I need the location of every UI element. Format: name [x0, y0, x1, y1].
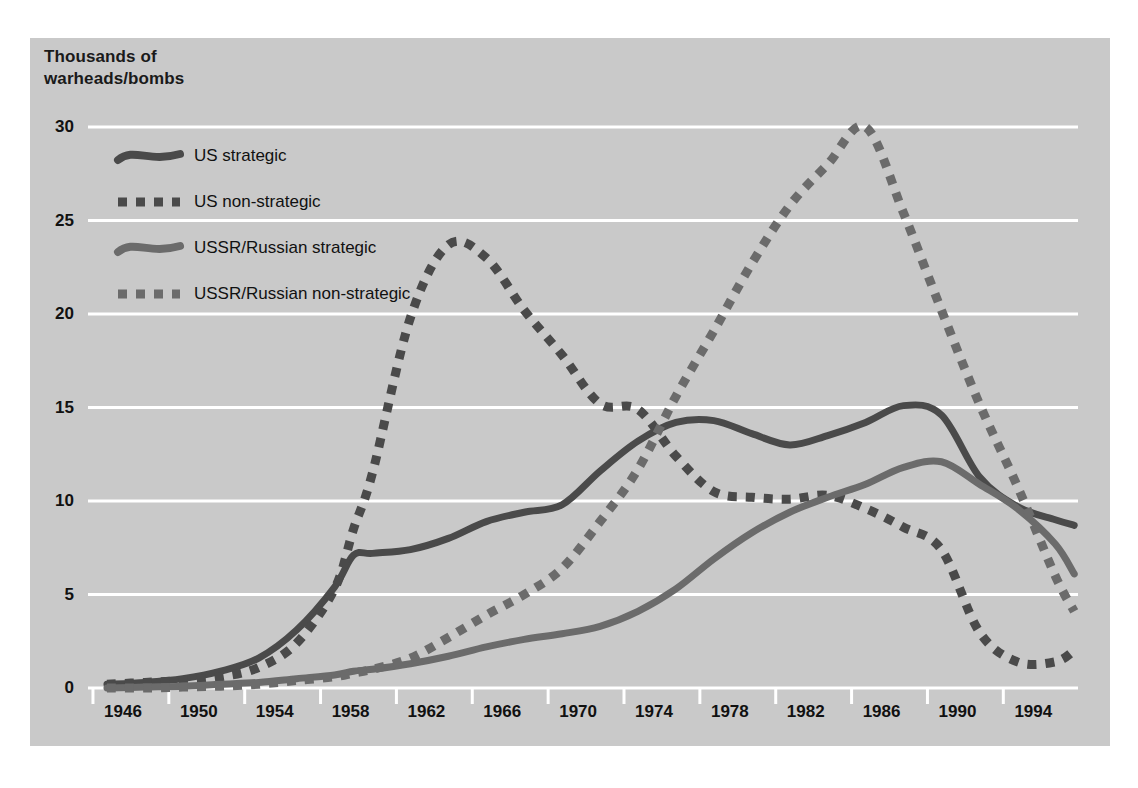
x-tick-label: 1986 — [847, 702, 917, 722]
legend-label-3: USSR/Russian non-strategic — [194, 284, 410, 304]
x-tick-label: 1950 — [164, 702, 234, 722]
chart-panel — [30, 38, 1110, 746]
y-tick-label: 25 — [30, 211, 74, 231]
x-tick-label: 1994 — [998, 702, 1068, 722]
y-tick-label: 20 — [30, 304, 74, 324]
nuclear-stockpile-chart: Thousands of warheads/bombs 051015202530… — [0, 0, 1138, 788]
x-tick-label: 1962 — [391, 702, 461, 722]
x-tick-label: 1974 — [619, 702, 689, 722]
y-tick-label: 0 — [30, 678, 74, 698]
x-tick-label: 1958 — [316, 702, 386, 722]
x-tick-label: 1990 — [922, 702, 992, 722]
y-tick-label: 30 — [30, 117, 74, 137]
x-tick-label: 1978 — [695, 702, 765, 722]
x-tick-label: 1982 — [771, 702, 841, 722]
x-tick-label: 1946 — [88, 702, 158, 722]
y-tick-label: 10 — [30, 491, 74, 511]
legend-label-0: US strategic — [194, 146, 287, 166]
x-tick-label: 1970 — [543, 702, 613, 722]
x-tick-label: 1966 — [467, 702, 537, 722]
y-axis-title: Thousands of warheads/bombs — [44, 46, 184, 90]
y-tick-label: 5 — [30, 585, 74, 605]
legend-label-2: USSR/Russian strategic — [194, 238, 376, 258]
legend-label-1: US non-strategic — [194, 192, 321, 212]
x-tick-label: 1954 — [240, 702, 310, 722]
y-tick-label: 15 — [30, 398, 74, 418]
